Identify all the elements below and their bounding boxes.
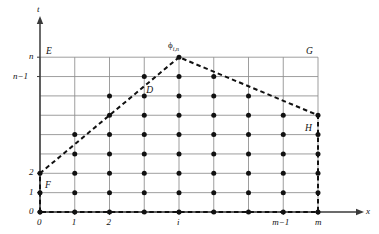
lattice-point: [177, 55, 182, 60]
lattice-point: [246, 151, 251, 156]
lattice-point: [72, 171, 77, 176]
apex-label-phi: ϕi,n: [168, 41, 179, 52]
y-tick-label-2: 2: [29, 168, 34, 177]
lattice-point: [72, 210, 77, 215]
x-axis-label: x: [366, 207, 370, 216]
lattice-point: [211, 93, 216, 98]
x-tick-label-0: 0: [37, 218, 42, 227]
lattice-point: [177, 171, 182, 176]
lattice-point: [38, 171, 43, 176]
lattice-point: [246, 190, 251, 195]
lattice-point: [142, 132, 147, 137]
x-tick-label-1: 1: [72, 218, 77, 227]
lattice-point: [246, 132, 251, 137]
lattice-point: [107, 210, 112, 215]
lattice-point: [211, 151, 216, 156]
lattice-point: [316, 132, 321, 137]
lattice-point: [38, 190, 43, 195]
lattice-point: [142, 113, 147, 118]
lattice-point: [316, 113, 321, 118]
lattice-point: [107, 93, 112, 98]
y-axis-arrowhead: [37, 16, 43, 24]
lattice-point: [142, 151, 147, 156]
x-tick-label-5: m: [315, 218, 322, 227]
y-tick-label-1: 1: [29, 188, 34, 197]
lattice-point: [142, 210, 147, 215]
lattice-point: [316, 190, 321, 195]
lattice-point: [211, 190, 216, 195]
lattice-point: [177, 93, 182, 98]
lattice-point: [107, 132, 112, 137]
point-label-e: E: [46, 47, 52, 57]
y-tick-label-0: 0: [29, 207, 34, 216]
figure-container: xt012im−1m012n−1nEFGHDϕi,n: [0, 0, 379, 234]
lattice-point: [281, 113, 286, 118]
lattice-point: [107, 113, 112, 118]
lattice-point: [142, 74, 147, 79]
lattice-point: [177, 210, 182, 215]
lattice-point: [281, 132, 286, 137]
x-tick-label-4: m−1: [272, 218, 289, 227]
lattice-point: [72, 132, 77, 137]
lattice-point: [316, 210, 321, 215]
lattice-point: [246, 93, 251, 98]
lattice-point: [177, 190, 182, 195]
lattice-point: [211, 74, 216, 79]
lattice-point: [177, 151, 182, 156]
lattice-diagram-svg: [0, 0, 379, 234]
lattice-point: [107, 171, 112, 176]
lattice-point: [246, 113, 251, 118]
lattice-point: [281, 151, 286, 156]
lattice-point: [316, 171, 321, 176]
lattice-point: [107, 151, 112, 156]
x-tick-label-2: 2: [107, 218, 112, 227]
point-label-g: G: [306, 47, 313, 57]
lattice-point: [211, 132, 216, 137]
lattice-point: [281, 190, 286, 195]
lattice-point: [142, 171, 147, 176]
lattice-point: [211, 171, 216, 176]
lattice-point: [281, 210, 286, 215]
lattice-point: [246, 171, 251, 176]
lattice-point: [211, 210, 216, 215]
lattice-point: [72, 151, 77, 156]
y-tick-label-3: n−1: [13, 72, 28, 81]
x-axis-arrowhead: [356, 209, 364, 215]
lattice-point: [177, 132, 182, 137]
lattice-point: [211, 113, 216, 118]
lattice-point: [72, 190, 77, 195]
y-axis-label: t: [37, 5, 40, 14]
point-label-f: F: [45, 181, 51, 191]
point-label-d: D: [146, 86, 153, 96]
lattice-point: [142, 190, 147, 195]
lattice-point: [316, 151, 321, 156]
lattice-point: [107, 190, 112, 195]
lattice-point: [177, 74, 182, 79]
lattice-point: [246, 210, 251, 215]
lattice-point: [38, 210, 43, 215]
lattice-point: [177, 113, 182, 118]
point-label-h: H: [305, 124, 312, 134]
lattice-point: [281, 171, 286, 176]
y-tick-label-4: n: [29, 52, 34, 61]
x-tick-label-3: i: [177, 218, 180, 227]
